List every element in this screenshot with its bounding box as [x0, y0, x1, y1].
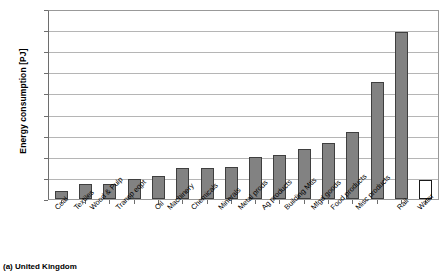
bar-slot — [292, 11, 316, 199]
bar-slot — [195, 11, 219, 199]
y-tick-mark — [44, 179, 48, 180]
bar-slot — [122, 11, 146, 199]
y-tick-mark — [44, 94, 48, 95]
y-tick-mark — [44, 52, 48, 53]
bar-slot — [244, 11, 268, 199]
bar-slot — [146, 11, 170, 199]
x-label-slot: Coal — [49, 204, 73, 260]
y-axis-title: Energy consumption [PJ] — [18, 6, 28, 196]
y-tick-mark — [44, 158, 48, 159]
x-label-slot: Water — [414, 204, 438, 260]
bar-slot — [98, 11, 122, 199]
bar — [152, 176, 165, 199]
y-tick-mark — [44, 200, 48, 201]
bar-slot — [316, 11, 340, 199]
figure-caption: (a) United Kingdom — [3, 262, 77, 271]
chart-figure: Energy consumption [PJ] 90.080.070.060.0… — [0, 0, 448, 280]
x-label-slot: Machinery — [171, 204, 195, 260]
x-label-slot: Misc products — [365, 204, 389, 260]
y-tick-mark — [44, 10, 48, 11]
x-label-slot: Mfgd goods — [316, 204, 340, 260]
x-label-slot: Wood & Pulp — [98, 204, 122, 260]
x-label-slot: Textiles — [73, 204, 97, 260]
bar-series — [49, 11, 438, 199]
x-axis-labels: CoalTextilesWood & PulpTransp eqptOilMac… — [49, 204, 438, 260]
bar — [395, 32, 408, 199]
y-tick-mark — [44, 31, 48, 32]
y-tick-mark — [44, 73, 48, 74]
bar-slot — [268, 11, 292, 199]
x-label-slot: Oil — [146, 204, 170, 260]
x-label-slot: Transp eqpt — [122, 204, 146, 260]
x-label-slot: Chemicals — [195, 204, 219, 260]
bar-slot — [171, 11, 195, 199]
x-label-slot: Minerals — [219, 204, 243, 260]
x-label-slot: Rail — [389, 204, 413, 260]
bar-slot — [389, 11, 413, 199]
x-label-slot: Building Mtls — [292, 204, 316, 260]
y-tick-mark — [44, 137, 48, 138]
bar-slot — [414, 11, 438, 199]
x-label-slot: Ag products — [268, 204, 292, 260]
bar-slot — [365, 11, 389, 199]
x-label-slot: Food products — [341, 204, 365, 260]
bar-slot — [219, 11, 243, 199]
x-label-slot: Metal prods — [244, 204, 268, 260]
bar-slot — [49, 11, 73, 199]
y-tick-mark — [44, 116, 48, 117]
bar-slot — [73, 11, 97, 199]
